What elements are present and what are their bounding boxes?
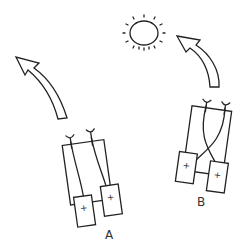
sun-icon [123,15,165,50]
vehicle-b-motor-right-sign: + [213,169,222,180]
vehicle-a-label: A [105,228,113,242]
vehicle-a: + + [61,127,124,228]
path-arrow-a [16,57,67,119]
vehicle-a-motor-left-sign: + [79,203,88,214]
path-arrow-b [177,36,219,87]
vehicle-a-motor-right-sign: + [106,192,115,203]
vehicle-b-label: B [197,195,205,209]
vehicle-b-motor-left-sign: + [182,160,191,171]
diagram-canvas: + + + + [0,0,245,245]
braitenberg-diagram: + + + + A B [0,0,245,245]
vehicle-b: + + [175,97,237,193]
